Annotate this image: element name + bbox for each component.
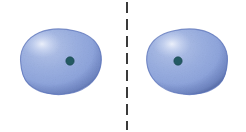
figure-canvas: Two spherical atomic orbital lobes separ…	[0, 0, 246, 132]
right-nucleus-dot	[174, 57, 182, 65]
right-lobe	[147, 29, 228, 95]
left-lobe	[20, 29, 101, 95]
orbital-diagram	[0, 0, 246, 132]
left-nucleus-dot	[66, 57, 74, 65]
